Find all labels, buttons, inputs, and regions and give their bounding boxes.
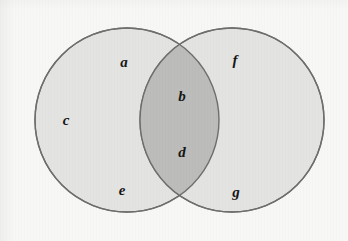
region-label-g: g (232, 185, 240, 200)
venn-diagram-canvas (0, 0, 348, 241)
region-label-d: d (178, 145, 186, 160)
region-label-c: c (63, 113, 70, 128)
region-label-b: b (178, 89, 186, 104)
venn-diagram-figure: a b c d e f g (0, 0, 348, 241)
region-label-a: a (120, 55, 128, 70)
region-label-e: e (119, 183, 126, 198)
region-label-f: f (233, 53, 238, 68)
